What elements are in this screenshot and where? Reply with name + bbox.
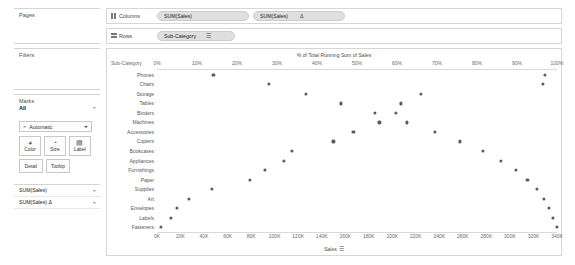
axis-tick: 200K bbox=[386, 233, 398, 239]
data-point-sales[interactable] bbox=[170, 216, 173, 219]
data-point-sales[interactable] bbox=[394, 111, 397, 114]
chevron-down-icon bbox=[84, 126, 88, 128]
data-point-sales[interactable] bbox=[211, 188, 214, 191]
row-label: Supplies bbox=[135, 186, 154, 192]
axis-tick: 40K bbox=[200, 233, 209, 239]
data-point-sales[interactable] bbox=[544, 73, 547, 76]
data-point-pct[interactable] bbox=[459, 140, 462, 143]
bottom-axis-title-text: Sales bbox=[324, 246, 337, 252]
color-button[interactable]: ◕ Color bbox=[19, 136, 41, 156]
data-point-sales[interactable] bbox=[264, 168, 267, 171]
axis-tick: 80K bbox=[247, 233, 256, 239]
pill-sub-category[interactable]: Sub-Category ☰ bbox=[157, 31, 235, 41]
measures-card: SUM(Sales) ◓ SUM(Sales) Δ ◓ bbox=[14, 184, 100, 216]
data-point-pct[interactable] bbox=[499, 159, 502, 162]
detail-button[interactable]: Detail bbox=[19, 159, 43, 173]
label-icon: ▤ bbox=[70, 139, 90, 147]
tooltip-button[interactable]: Tooltip bbox=[46, 159, 70, 173]
pill-label: SUM(Sales) bbox=[260, 11, 288, 21]
mark-type-dropdown[interactable]: ◓ Automatic bbox=[19, 121, 92, 132]
tableau-worksheet: Pages Filters Marks All ◓ ◓ Automatic ◕ … bbox=[14, 8, 562, 256]
left-panel: Pages Filters Marks All ◓ ◓ Automatic ◕ … bbox=[14, 8, 100, 256]
data-point-pct[interactable] bbox=[433, 130, 436, 133]
axis-tick: 120K bbox=[292, 233, 304, 239]
data-point-pct[interactable] bbox=[555, 226, 558, 229]
data-point-sales[interactable] bbox=[541, 83, 544, 86]
axis-tick: 240K bbox=[434, 233, 446, 239]
axis-tick: 0K bbox=[154, 233, 160, 239]
row-label: Labels bbox=[139, 215, 154, 221]
color-icon: ◕ bbox=[20, 139, 40, 147]
data-point-pct[interactable] bbox=[481, 149, 484, 152]
data-point-sales[interactable] bbox=[159, 226, 162, 229]
data-point-sales[interactable] bbox=[248, 178, 251, 181]
axis-tick: 280K bbox=[481, 233, 493, 239]
data-point-sales[interactable] bbox=[175, 207, 178, 210]
axis-tick: 100K bbox=[269, 233, 281, 239]
data-point-sales[interactable] bbox=[352, 130, 355, 133]
pages-card[interactable]: Pages bbox=[14, 8, 100, 44]
measure-item-label: SUM(Sales) Δ bbox=[19, 199, 52, 205]
bottom-axis-title: Sales☰ bbox=[107, 245, 561, 252]
data-point-pct[interactable] bbox=[542, 197, 545, 200]
visualization-pane[interactable]: % of Total Running Sum of Sales Sub-Cate… bbox=[106, 48, 562, 256]
data-point-sales[interactable] bbox=[378, 121, 381, 124]
axis-tick: 70% bbox=[432, 60, 442, 66]
data-point-pct[interactable] bbox=[547, 207, 550, 210]
filters-card[interactable]: Filters bbox=[14, 48, 100, 90]
axis-tick: 320K bbox=[528, 233, 540, 239]
data-point-sales[interactable] bbox=[332, 140, 335, 143]
top-axis[interactable]: 0%10%20%30%40%50%60%70%80%90%100% bbox=[107, 60, 561, 69]
data-point-sales[interactable] bbox=[187, 197, 190, 200]
pill-sum-sales[interactable]: SUM(Sales) bbox=[157, 11, 249, 21]
data-point-pct[interactable] bbox=[267, 83, 270, 86]
columns-icon bbox=[111, 13, 117, 19]
data-point-pct[interactable] bbox=[535, 188, 538, 191]
measure-mini-icon: ◓ bbox=[93, 186, 96, 197]
columns-shelf[interactable]: Columns SUM(Sales) SUM(Sales) Δ bbox=[106, 8, 562, 24]
rows-icon bbox=[111, 33, 117, 39]
axis-tick: 180K bbox=[363, 233, 375, 239]
measure-item-sum-sales-delta[interactable]: SUM(Sales) Δ ◓ bbox=[14, 197, 100, 209]
row-label: Phones bbox=[137, 72, 154, 78]
measure-item-sum-sales[interactable]: SUM(Sales) ◓ bbox=[14, 185, 100, 197]
data-point-pct[interactable] bbox=[305, 92, 308, 95]
axis-tick: 220K bbox=[410, 233, 422, 239]
data-point-pct[interactable] bbox=[373, 111, 376, 114]
size-label: Size bbox=[45, 147, 65, 153]
data-point-sales[interactable] bbox=[419, 92, 422, 95]
data-point-pct[interactable] bbox=[405, 121, 408, 124]
pill-sum-sales-delta[interactable]: SUM(Sales) Δ bbox=[253, 11, 345, 21]
marks-all-row[interactable]: All ◓ bbox=[14, 104, 100, 111]
axis-tick: 100% bbox=[551, 60, 564, 66]
size-button[interactable]: ◔ Size bbox=[44, 136, 66, 156]
data-point-sales[interactable] bbox=[282, 159, 285, 162]
scatter-plot[interactable]: PhonesChairsStorageTablesBindersMachines… bbox=[157, 70, 557, 232]
axis-tick: 10% bbox=[192, 60, 202, 66]
bottom-axis[interactable]: 0K20K40K60K80K100K120K140K160K180K200K22… bbox=[107, 233, 561, 242]
marks-title: Marks bbox=[14, 95, 100, 104]
data-point-pct[interactable] bbox=[339, 102, 342, 105]
data-point-pct[interactable] bbox=[526, 178, 529, 181]
measure-mini-icon: ◓ bbox=[93, 105, 96, 111]
rows-shelf[interactable]: Rows Sub-Category ☰ bbox=[106, 28, 562, 44]
data-point-sales[interactable] bbox=[291, 149, 294, 152]
pill-label: Sub-Category bbox=[164, 31, 196, 41]
data-point-sales[interactable] bbox=[399, 102, 402, 105]
row-label: Bookcases bbox=[130, 148, 154, 154]
axis-tick: 40% bbox=[312, 60, 322, 66]
label-button[interactable]: ▤ Label bbox=[69, 136, 91, 156]
axis-tick: 60% bbox=[392, 60, 402, 66]
data-point-pct[interactable] bbox=[551, 216, 554, 219]
data-point-pct[interactable] bbox=[515, 168, 518, 171]
row-label: Fasteners bbox=[132, 224, 154, 230]
rows-shelf-label: Rows bbox=[107, 33, 157, 39]
filters-title: Filters bbox=[14, 49, 100, 58]
row-label: Furnishings bbox=[128, 167, 154, 173]
measure-mini-icon: ◓ bbox=[93, 198, 96, 209]
data-point-pct[interactable] bbox=[212, 73, 215, 76]
tooltip-label: Tooltip bbox=[47, 164, 69, 170]
measure-item-label: SUM(Sales) bbox=[19, 187, 47, 193]
row-label: Art bbox=[148, 196, 154, 202]
row-label: Binders bbox=[137, 110, 154, 116]
